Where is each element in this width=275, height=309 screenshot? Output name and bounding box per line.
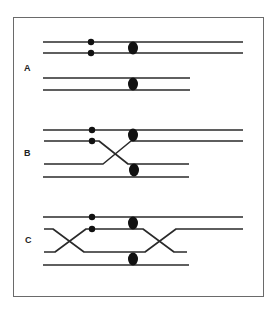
marker-dot: [89, 226, 95, 232]
marker-dot: [89, 138, 95, 144]
centromere: [128, 78, 138, 91]
centromere: [129, 164, 139, 177]
panel-c-markers: [89, 214, 138, 266]
panel-a-strands: [43, 42, 243, 90]
marker-dot: [89, 127, 95, 133]
marker-dot: [89, 214, 95, 220]
chromosome-diagram: [0, 0, 275, 309]
marker-dot: [88, 50, 94, 56]
panel-b-strands: [43, 130, 243, 177]
panel-a-markers: [88, 39, 138, 91]
marker-dot: [88, 39, 94, 45]
panel-c-strands: [43, 217, 243, 265]
centromere: [128, 42, 138, 55]
centromere: [128, 129, 138, 142]
centromere: [128, 217, 138, 230]
panel-b-markers: [89, 127, 139, 177]
centromere: [128, 253, 138, 266]
